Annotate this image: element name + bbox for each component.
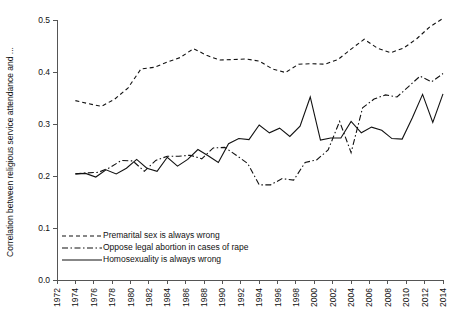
legend-label-2: Oppose legal abortion in cases of rape [103, 242, 249, 252]
x-tick-label: 1992 [236, 288, 246, 307]
x-tick-label: 2010 [401, 288, 411, 307]
x-tick-label: 1990 [217, 288, 227, 307]
x-tick-label: 1988 [199, 288, 209, 307]
x-tick-label: 1980 [126, 288, 136, 307]
correlation-line-chart: 0.00.10.20.30.40.5 197219741976197819801… [0, 0, 453, 330]
x-tick-label: 1982 [144, 288, 154, 307]
chart-legend: Premarital sex is always wrongOppose leg… [62, 230, 249, 264]
x-tick-label: 1984 [162, 288, 172, 307]
x-axis: 1972197419761978198019821984198619881990… [52, 280, 448, 307]
x-tick-label: 2000 [309, 288, 319, 307]
x-tick-label: 2012 [420, 288, 430, 307]
y-tick-label: 0.4 [38, 67, 50, 77]
chart-container: 0.00.10.20.30.40.5 197219741976197819801… [0, 0, 453, 330]
y-tick-label: 0.5 [38, 15, 50, 25]
y-axis: 0.00.10.20.30.40.5 [38, 15, 57, 285]
x-tick-label: 1998 [291, 288, 301, 307]
legend-label-1: Premarital sex is always wrong [103, 230, 220, 240]
series-lines [75, 18, 443, 184]
series-line-1 [75, 18, 443, 106]
x-tick-label: 1974 [70, 288, 80, 307]
x-tick-label: 1972 [52, 288, 62, 307]
series-line-3 [75, 94, 443, 177]
y-axis-title: Correlation between religious service at… [5, 47, 15, 257]
y-tick-label: 0.3 [38, 119, 50, 129]
x-tick-label: 2014 [438, 288, 448, 307]
x-tick-label: 1996 [273, 288, 283, 307]
x-tick-label: 1976 [89, 288, 99, 307]
y-tick-label: 0.2 [38, 171, 50, 181]
x-tick-label: 1986 [181, 288, 191, 307]
x-tick-label: 2008 [383, 288, 393, 307]
x-tick-label: 2004 [346, 288, 356, 307]
x-tick-label: 2006 [364, 288, 374, 307]
x-tick-label: 2002 [328, 288, 338, 307]
y-tick-label: 0.1 [38, 223, 50, 233]
x-tick-label: 1978 [107, 288, 117, 307]
x-tick-label: 1994 [254, 288, 264, 307]
y-tick-label: 0.0 [38, 275, 50, 285]
legend-label-3: Homosexuality is always wrong [103, 254, 221, 264]
series-line-2 [75, 74, 443, 185]
